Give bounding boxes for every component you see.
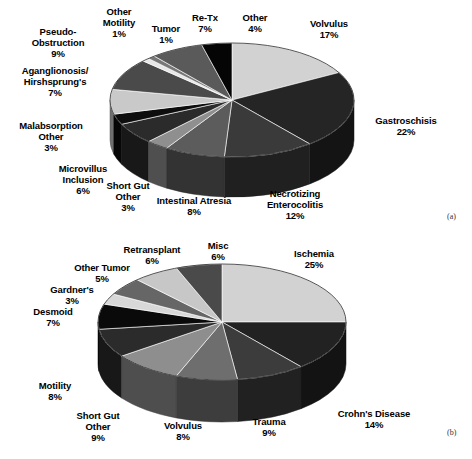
- label-motility: Motility 8%: [22, 380, 88, 402]
- label-re-tx: Re-Tx 7%: [183, 12, 227, 34]
- label-volvulus-a: Volvulus 17%: [290, 18, 368, 40]
- label-trauma: Trauma 9%: [238, 416, 300, 438]
- label-necrotizing-enterocolitis: Necrotizing Enterocolitis 12%: [248, 188, 342, 221]
- label-gardners: Gardner's 3%: [36, 284, 108, 306]
- label-other-motility: Other Motility 1%: [88, 6, 150, 39]
- label-ischemia: Ischemia 25%: [276, 248, 352, 270]
- label-short-gut-other-b: Short Gut Other 9%: [60, 410, 136, 443]
- label-desmoid: Desmoid 7%: [18, 306, 88, 328]
- label-crohns-disease: Crohn's Disease 14%: [322, 408, 426, 430]
- pie-chart-panel-a: Pseudo- Obstruction 9% Other Motility 1%…: [0, 0, 472, 230]
- label-aganglionosis: Aganglionosis/ Hirshsprung's 7%: [0, 65, 110, 98]
- label-malabsorption-other: Malabsorption Other 3%: [0, 120, 102, 153]
- label-intestinal-atresia: Intestinal Atresia 8%: [142, 195, 246, 217]
- label-misc: Misc 6%: [196, 240, 240, 262]
- pie-chart-panel-b: Retransplant 6% Misc 6% Ischemia 25% Oth…: [0, 230, 472, 459]
- label-volvulus-b: Volvulus 8%: [150, 420, 216, 442]
- panel-tag-b: (b): [447, 428, 456, 437]
- panel-tag-a: (a): [447, 212, 456, 221]
- label-other-a: Other 4%: [233, 12, 277, 34]
- label-other-tumor: Other Tumor 5%: [58, 262, 146, 284]
- label-gastroschisis: Gastroschisis 22%: [358, 115, 454, 137]
